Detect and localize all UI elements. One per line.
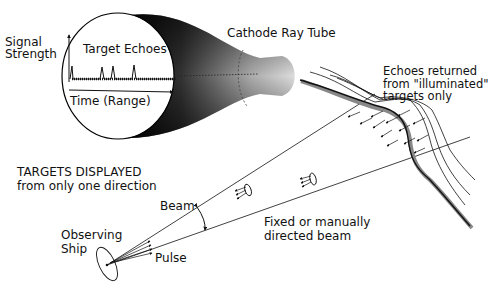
echo-pulse-2 — [300, 172, 317, 187]
beam-label: Beam — [160, 200, 195, 212]
y-axis-label-text: Signal Strength — [5, 36, 57, 60]
target-echoes-label: Target Echoes — [83, 43, 167, 55]
ship-label-line1: Observing — [61, 229, 122, 241]
radar-diagram: Signal Strength Target Echoes Time (Rang… — [0, 0, 502, 290]
echo-pulse-1 — [235, 183, 253, 199]
ship-label-line2: Ship — [61, 243, 87, 255]
pulse-label: Pulse — [155, 252, 187, 264]
beam-desc-line2: directed beam — [264, 230, 351, 242]
y-axis-label: Signal Strength — [5, 36, 57, 60]
beam-desc-line1: Fixed or manually — [264, 216, 370, 228]
crt-title: Cathode Ray Tube — [227, 27, 336, 39]
caption-sub: from only one direction — [17, 180, 157, 192]
echoes-label-line1: Echoes returned — [383, 66, 477, 78]
echoes-label-line3: targets only — [383, 91, 452, 103]
caption-main: TARGETS DISPLAYED — [17, 166, 142, 178]
x-axis-label: Time (Range) — [70, 95, 151, 107]
